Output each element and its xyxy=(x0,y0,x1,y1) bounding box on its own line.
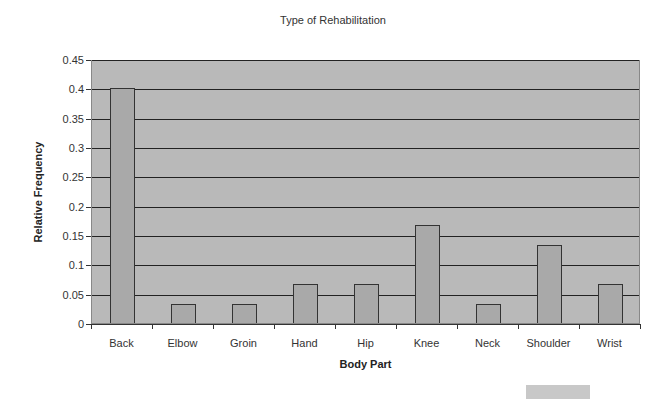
bar-hip xyxy=(354,284,380,323)
bar-back xyxy=(110,88,136,323)
y-axis-title: Relative Frequency xyxy=(32,142,44,243)
chart-title: Type of Rehabilitation xyxy=(0,14,666,26)
x-tick-mark xyxy=(518,324,519,329)
y-tick-label: 0.45 xyxy=(63,54,84,66)
x-tick-label: Back xyxy=(109,337,133,349)
x-tick-mark xyxy=(640,324,641,329)
gridline xyxy=(92,60,639,61)
y-tick-label: 0.1 xyxy=(69,259,84,271)
x-axis-line xyxy=(91,324,640,325)
gridline xyxy=(92,119,639,120)
y-tick-label: 0.2 xyxy=(69,201,84,213)
gridline xyxy=(92,236,639,237)
bar-neck xyxy=(476,304,502,323)
y-tick-label: 0.4 xyxy=(69,83,84,95)
x-tick-label: Wrist xyxy=(597,337,622,349)
legend-swatch xyxy=(526,385,590,399)
bar-hand xyxy=(293,284,319,323)
y-tick-label: 0 xyxy=(78,318,84,330)
x-tick-label: Elbow xyxy=(168,337,198,349)
y-tick-label: 0.15 xyxy=(63,230,84,242)
x-tick-label: Hand xyxy=(291,337,317,349)
x-tick-mark xyxy=(396,324,397,329)
x-tick-label: Groin xyxy=(230,337,257,349)
y-tick-label: 0.3 xyxy=(69,142,84,154)
gridline xyxy=(92,89,639,90)
y-tick-label: 0.05 xyxy=(63,289,84,301)
x-tick-mark xyxy=(274,324,275,329)
x-tick-mark xyxy=(335,324,336,329)
y-tick-label: 0.25 xyxy=(63,171,84,183)
gridline xyxy=(92,207,639,208)
bar-wrist xyxy=(598,284,624,323)
x-tick-label: Shoulder xyxy=(526,337,570,349)
y-tick-label: 0.35 xyxy=(63,113,84,125)
x-tick-label: Neck xyxy=(475,337,500,349)
bar-knee xyxy=(415,225,441,323)
plot-area xyxy=(91,60,640,324)
x-tick-label: Hip xyxy=(357,337,374,349)
x-tick-mark xyxy=(457,324,458,329)
x-tick-label: Knee xyxy=(414,337,440,349)
gridline xyxy=(92,148,639,149)
x-tick-mark xyxy=(91,324,92,329)
x-tick-mark xyxy=(579,324,580,329)
x-tick-mark xyxy=(152,324,153,329)
bar-elbow xyxy=(171,304,197,323)
x-tick-mark xyxy=(213,324,214,329)
bar-shoulder xyxy=(537,245,563,323)
x-axis-title: Body Part xyxy=(0,358,666,370)
gridline xyxy=(92,177,639,178)
bar-groin xyxy=(232,304,258,323)
